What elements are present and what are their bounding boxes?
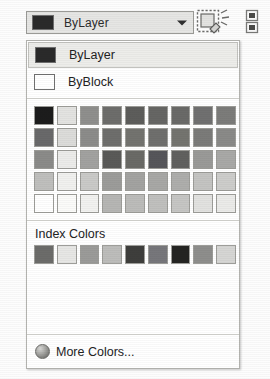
match-properties-icon[interactable]	[196, 8, 234, 36]
color-swatch[interactable]	[102, 106, 122, 125]
color-swatch[interactable]	[125, 128, 145, 147]
color-option-swatch	[35, 47, 56, 63]
color-swatch[interactable]	[216, 194, 236, 213]
color-swatch[interactable]	[102, 172, 122, 191]
color-swatch[interactable]	[102, 128, 122, 147]
color-swatch[interactable]	[216, 128, 236, 147]
color-swatch[interactable]	[125, 106, 145, 125]
color-combobox-value: ByLayer	[64, 16, 109, 30]
index-color-swatch[interactable]	[57, 245, 77, 264]
color-swatch[interactable]	[216, 150, 236, 169]
color-swatch[interactable]	[148, 106, 168, 125]
color-option-byblock[interactable]: ByBlock	[27, 69, 239, 95]
index-color-swatch[interactable]	[148, 245, 168, 264]
color-grid-row	[34, 150, 239, 169]
color-combobox[interactable]: ByLayer	[26, 11, 194, 34]
color-swatch[interactable]	[57, 128, 77, 147]
current-color-swatch	[32, 15, 54, 30]
index-colors-title: Index Colors	[27, 221, 239, 245]
color-swatch[interactable]	[34, 172, 54, 191]
color-swatch[interactable]	[171, 128, 191, 147]
properties-toolbar: ByLayer	[0, 0, 270, 42]
color-swatch[interactable]	[193, 106, 213, 125]
color-swatch[interactable]	[171, 194, 191, 213]
chevron-down-icon[interactable]	[177, 20, 187, 25]
index-color-swatch[interactable]	[80, 245, 100, 264]
color-swatch[interactable]	[34, 106, 54, 125]
color-swatch[interactable]	[125, 150, 145, 169]
color-swatch[interactable]	[193, 150, 213, 169]
color-grid-row	[34, 172, 239, 191]
color-swatch[interactable]	[193, 172, 213, 191]
color-option-label: ByBlock	[68, 75, 113, 89]
index-color-swatch[interactable]	[102, 245, 122, 264]
color-option-bylayer[interactable]: ByLayer	[28, 42, 238, 68]
color-swatch[interactable]	[57, 172, 77, 191]
color-swatch[interactable]	[125, 172, 145, 191]
color-swatch[interactable]	[34, 150, 54, 169]
color-swatch[interactable]	[148, 128, 168, 147]
color-options-list: ByLayerByBlock	[27, 42, 239, 95]
color-swatch[interactable]	[80, 150, 100, 169]
color-swatch[interactable]	[80, 172, 100, 191]
color-swatch[interactable]	[57, 194, 77, 213]
index-color-swatch[interactable]	[34, 245, 54, 264]
color-dropdown-widget: ByLayer ByLayerByBlock	[0, 0, 270, 379]
color-swatch[interactable]	[148, 172, 168, 191]
color-swatch[interactable]	[57, 106, 77, 125]
index-color-swatch[interactable]	[193, 245, 213, 264]
color-option-label: ByLayer	[69, 48, 115, 62]
color-swatch[interactable]	[171, 150, 191, 169]
color-dropdown-panel: ByLayerByBlock Index Colors More Colors.…	[26, 40, 240, 369]
color-swatch[interactable]	[148, 150, 168, 169]
more-colors-label: More Colors...	[56, 345, 135, 359]
color-option-swatch	[34, 74, 55, 90]
color-grid-row	[34, 194, 239, 213]
color-swatch[interactable]	[34, 128, 54, 147]
color-grid-row	[34, 128, 239, 147]
layer-previous-icon[interactable]	[242, 8, 262, 36]
index-colors-row	[27, 245, 239, 270]
color-swatch[interactable]	[102, 194, 122, 213]
index-color-swatch[interactable]	[171, 245, 191, 264]
color-grid-row	[34, 106, 239, 125]
color-swatch[interactable]	[216, 106, 236, 125]
color-swatch[interactable]	[193, 194, 213, 213]
color-swatch[interactable]	[80, 194, 100, 213]
color-swatch[interactable]	[171, 172, 191, 191]
color-swatch[interactable]	[193, 128, 213, 147]
color-wheel-icon	[35, 344, 50, 359]
color-swatch[interactable]	[80, 106, 100, 125]
color-swatch[interactable]	[102, 150, 122, 169]
standard-colors-grid	[27, 99, 239, 217]
index-color-swatch[interactable]	[216, 245, 236, 264]
color-swatch[interactable]	[148, 194, 168, 213]
color-swatch[interactable]	[125, 194, 145, 213]
color-swatch[interactable]	[57, 150, 77, 169]
color-swatch[interactable]	[216, 172, 236, 191]
color-swatch[interactable]	[80, 128, 100, 147]
more-colors-button[interactable]: More Colors...	[27, 334, 239, 368]
color-swatch[interactable]	[171, 106, 191, 125]
color-swatch[interactable]	[34, 194, 54, 213]
index-color-swatch[interactable]	[125, 245, 145, 264]
